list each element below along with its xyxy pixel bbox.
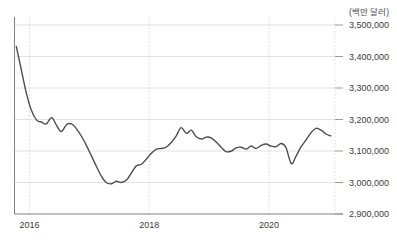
x-tick-label: 2018 — [139, 220, 159, 230]
data-line-series-1 — [16, 46, 331, 183]
y-tick-label: 3,000,000 — [349, 178, 389, 188]
line-chart-plot — [0, 0, 397, 244]
tick-marks — [335, 25, 343, 214]
axis-lines — [15, 17, 344, 214]
x-tick-label: 2020 — [259, 220, 279, 230]
y-tick-label: 3,300,000 — [349, 83, 389, 93]
grid-lines — [15, 17, 336, 214]
y-tick-label: 3,200,000 — [349, 115, 389, 125]
chart-container: (백만 달러) 3,500,0003,400,0003,300,0003,200… — [0, 0, 397, 244]
x-tick-label: 2016 — [19, 220, 39, 230]
y-tick-label: 3,100,000 — [349, 146, 389, 156]
series-line — [16, 46, 331, 183]
y-tick-label: 3,500,000 — [349, 20, 389, 30]
y-tick-label: 3,400,000 — [349, 52, 389, 62]
y-tick-label: 2,900,000 — [349, 209, 389, 219]
